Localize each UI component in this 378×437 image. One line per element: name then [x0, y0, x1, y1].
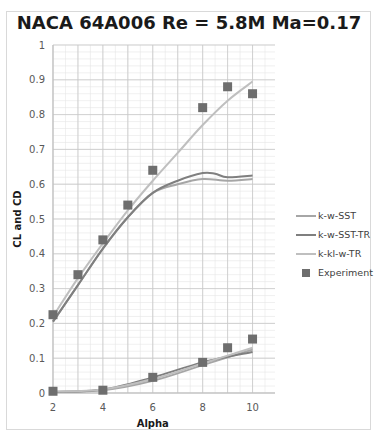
marker-experiment-cd: [148, 373, 157, 382]
marker-experiment-cl: [223, 82, 232, 91]
y-tick-label: 0.7: [29, 144, 45, 155]
legend-line-swatch: [296, 234, 316, 236]
marker-experiment-cl: [148, 166, 157, 175]
marker-experiment-cd: [49, 387, 58, 396]
legend-label: k-kl-w-TR: [318, 248, 361, 259]
y-tick-label: 0.5: [29, 214, 45, 225]
marker-experiment-cl: [248, 89, 257, 98]
x-tick-label: 4: [100, 402, 106, 413]
marker-experiment-cd: [198, 358, 207, 367]
y-axis-label: CL and CD: [12, 190, 23, 247]
legend-item-k-w-sst-tr: k-w-SST-TR: [296, 225, 376, 244]
legend-item-experiment: Experiment: [296, 263, 376, 282]
marker-experiment-cl: [73, 270, 82, 279]
marker-experiment-cl: [198, 103, 207, 112]
marker-experiment-cl: [123, 201, 132, 210]
legend-line-swatch: [296, 253, 316, 255]
legend-label: k-w-SST: [318, 210, 356, 221]
legend-marker-swatch: [302, 269, 310, 277]
legend-item-k-w-sst: k-w-SST: [296, 206, 376, 225]
legend-item-k-kl-w-tr: k-kl-w-TR: [296, 244, 376, 263]
marker-experiment-cd: [98, 386, 107, 395]
x-tick-label: 10: [246, 402, 259, 413]
y-tick-label: 0.2: [29, 318, 45, 329]
y-tick-label: 0.1: [29, 353, 45, 364]
y-tick-label: 0.8: [29, 109, 45, 120]
marker-experiment-cl: [98, 235, 107, 244]
x-axis-label: Alpha: [137, 418, 169, 429]
marker-experiment-cl: [49, 310, 58, 319]
x-tick-label: 2: [50, 402, 56, 413]
y-tick-label: 0.3: [29, 283, 45, 294]
x-tick-label: 6: [150, 402, 156, 413]
y-tick-label: 0.6: [29, 179, 45, 190]
y-tick-label: 0: [39, 388, 45, 399]
marker-experiment-cd: [248, 335, 257, 344]
legend-line-swatch: [296, 215, 316, 217]
y-tick-label: 1: [39, 40, 45, 51]
legend-label: Experiment: [318, 267, 373, 278]
y-tick-label: 0.4: [29, 248, 45, 259]
x-tick-label: 8: [199, 402, 205, 413]
legend-label: k-w-SST-TR: [318, 229, 370, 240]
legend: k-w-SSTk-w-SST-TRk-kl-w-TRExperiment: [296, 206, 376, 282]
y-tick-label: 0.9: [29, 74, 45, 85]
marker-experiment-cd: [223, 343, 232, 352]
